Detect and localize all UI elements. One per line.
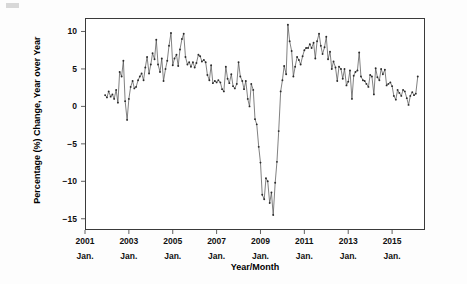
x-tick-label: 2015Jan. <box>372 236 412 261</box>
x-tick-year: 2001 <box>65 236 105 247</box>
x-tick-label: 2013Jan. <box>328 236 368 261</box>
x-tick-month: Jan. <box>240 251 280 262</box>
y-tick-label: 0 <box>49 101 77 111</box>
x-tick-month: Jan. <box>153 251 193 262</box>
x-tick-month: Jan. <box>197 251 237 262</box>
x-tick-label: 2011Jan. <box>284 236 324 261</box>
x-tick-month: Jan. <box>109 251 149 262</box>
x-tick-month: Jan. <box>284 251 324 262</box>
plot-frame <box>85 18 425 230</box>
x-tick-year: 2005 <box>153 236 193 247</box>
y-tick-label: −10 <box>49 176 77 186</box>
x-tick-month: Jan. <box>65 251 105 262</box>
x-tick-month: Jan. <box>372 251 412 262</box>
x-tick-label: 2005Jan. <box>153 236 193 261</box>
x-tick-year: 2009 <box>240 236 280 247</box>
x-tick-year: 2015 <box>372 236 412 247</box>
y-tick-label: −5 <box>49 139 77 149</box>
x-tick-year: 2013 <box>328 236 368 247</box>
scan-artifact <box>6 3 19 8</box>
x-tick-year: 2007 <box>197 236 237 247</box>
x-tick-label: 2009Jan. <box>240 236 280 261</box>
x-tick-label: 2003Jan. <box>109 236 149 261</box>
y-tick-label: −15 <box>49 214 77 224</box>
x-tick-year: 2003 <box>109 236 149 247</box>
y-tick-label: 5 <box>49 64 77 74</box>
x-tick-year: 2011 <box>284 236 324 247</box>
x-tick-label: 2007Jan. <box>197 236 237 261</box>
x-axis-title: Year/Month <box>85 262 425 272</box>
y-axis-title: Percentage (%) Change, Year over Year <box>32 20 42 220</box>
x-tick-label: 2001Jan. <box>65 236 105 261</box>
x-tick-month: Jan. <box>328 251 368 262</box>
chart-page: Percentage (%) Change, Year over Year Ye… <box>0 0 467 284</box>
y-tick-label: 10 <box>49 26 77 36</box>
